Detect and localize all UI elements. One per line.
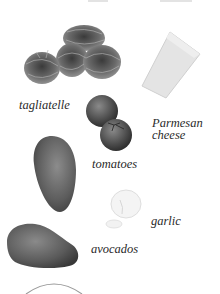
tagliatelle-image <box>22 18 126 88</box>
cut-off-heading-right <box>160 0 192 2</box>
avocado-lying-image <box>3 220 81 270</box>
tagliatelle-label: tagliatelle <box>19 99 70 111</box>
ingredients-page: tagliatelle Parmesan cheese <box>0 0 220 294</box>
parmesan-label-line2: cheese <box>152 129 203 141</box>
tomatoes-label: tomatoes <box>92 158 137 170</box>
parmesan-image <box>140 28 204 100</box>
garlic-label: garlic <box>151 215 181 227</box>
cut-off-heading-left <box>88 0 108 2</box>
bowl-rim-image <box>24 278 84 294</box>
avocados-label: avocados <box>91 243 138 255</box>
tomatoes-image <box>84 93 136 153</box>
garlic-image <box>100 188 148 232</box>
avocado-upright-image <box>32 134 78 214</box>
parmesan-label: Parmesan cheese <box>152 117 203 141</box>
